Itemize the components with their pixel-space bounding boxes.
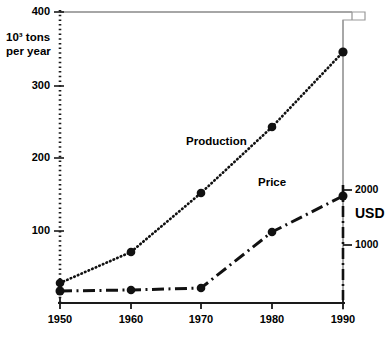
plot-frame bbox=[60, 12, 365, 310]
x-tick-label-1950: 1950 bbox=[36, 313, 84, 325]
y-tick-label-200: 200 bbox=[14, 151, 50, 163]
x-tick-label-1970: 1970 bbox=[177, 313, 225, 325]
x-tick-label-1960: 1960 bbox=[107, 313, 155, 325]
data-point-production-1980 bbox=[268, 123, 277, 132]
data-point-price-1950 bbox=[56, 287, 65, 296]
y-tick-label-2000-usd: 2000 bbox=[355, 183, 378, 195]
data-point-price-1970 bbox=[197, 284, 206, 293]
y-axis-right-unit-label: USD bbox=[355, 205, 385, 221]
data-point-price-1980 bbox=[268, 228, 277, 237]
y-axis-title-line2: per year bbox=[6, 45, 51, 57]
data-point-production-1950 bbox=[56, 279, 65, 288]
data-point-production-1990 bbox=[338, 47, 347, 56]
data-point-production-1960 bbox=[127, 248, 136, 257]
x-tick-label-1990: 1990 bbox=[319, 313, 367, 325]
series-label-production: Production bbox=[186, 135, 247, 147]
x-tick-label-1980: 1980 bbox=[248, 313, 296, 325]
data-point-price-1990 bbox=[339, 192, 348, 201]
chart-container: 10³ tons per year 400 300 200 100 1950 1… bbox=[0, 0, 388, 340]
series-label-price: Price bbox=[258, 176, 286, 188]
data-point-production-1970 bbox=[197, 189, 206, 198]
y-axis-left-title: 10³ tons per year bbox=[6, 30, 72, 58]
series-price-line bbox=[60, 196, 343, 291]
series-production-line bbox=[60, 52, 343, 283]
y-tick-label-300: 300 bbox=[14, 79, 50, 91]
y-axis-title-line1: 10³ tons bbox=[6, 31, 50, 43]
y-tick-label-100: 100 bbox=[14, 224, 50, 236]
data-point-price-1960 bbox=[127, 286, 136, 295]
y-tick-label-400: 400 bbox=[14, 5, 50, 17]
y-tick-label-1000-usd: 1000 bbox=[355, 238, 378, 250]
